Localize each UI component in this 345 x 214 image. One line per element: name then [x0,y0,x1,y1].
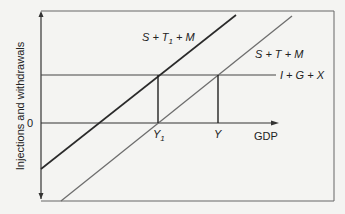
withdrawals-line-t1 [41,15,236,169]
y1-marker-label: Y1 [153,128,165,143]
x-axis-arrow-icon [271,121,279,126]
y-marker-label: Y [214,128,222,140]
x-axis-label: GDP [254,130,278,142]
y-axis-up-arrow-icon [39,11,44,17]
withdrawals-line-t [61,16,292,201]
origin-label: 0 [27,117,33,129]
y-axis-down-arrow-icon [39,193,44,199]
y-axis-label: Injections and withdrawals [14,41,26,170]
injections-withdrawals-diagram: Injections and withdrawals 0 GDP Y1 Y S … [0,0,345,214]
withdrawals-t-label: S + T + M [255,48,304,60]
withdrawals-t1-label: S + T1 + M [142,31,196,46]
injections-label: I + G + X [280,69,325,81]
